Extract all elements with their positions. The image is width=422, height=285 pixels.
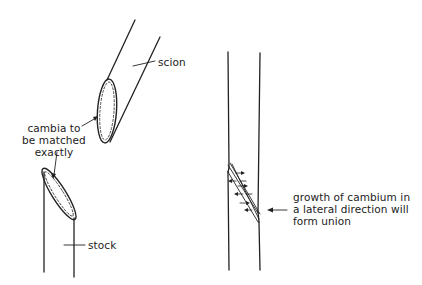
union-label-line-2: a lateral direction will: [293, 203, 410, 215]
union-label: growth of cambium in a lateral direction…: [293, 191, 410, 227]
cambia-label-line-3: exactly: [22, 146, 86, 158]
union-label-line-3: form union: [293, 215, 410, 227]
stock-label: stock: [88, 239, 116, 251]
stock-shoot: [37, 165, 81, 277]
scion-label: scion: [158, 56, 186, 68]
union-label-line-1: growth of cambium in: [293, 191, 410, 203]
cambia-label-line-2: be matched: [22, 134, 86, 146]
union-arrow: [267, 208, 287, 213]
scion-leader-line: [133, 61, 155, 66]
scion-shoot: [95, 20, 160, 144]
grafted-stem: [228, 52, 260, 270]
cambia-label-line-1: cambia to: [22, 122, 86, 134]
cambia-label: cambia to be matched exactly: [22, 122, 86, 158]
union-cambium-lines: [228, 163, 260, 222]
